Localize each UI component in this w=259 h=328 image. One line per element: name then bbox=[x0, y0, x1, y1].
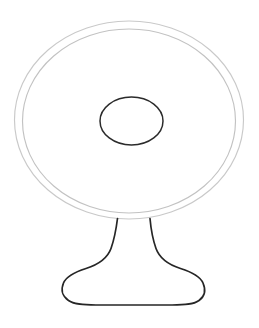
canvas-background bbox=[0, 0, 259, 328]
drawing-canvas bbox=[0, 0, 259, 328]
pedestal-table-illustration bbox=[0, 0, 259, 328]
